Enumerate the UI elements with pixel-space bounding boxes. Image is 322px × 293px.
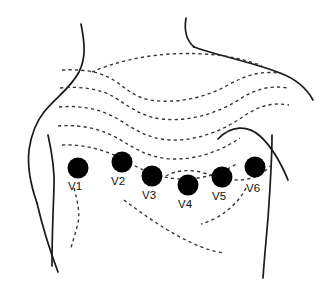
rib-line-2 xyxy=(62,70,284,101)
electrode-label-v2: V2 xyxy=(111,176,125,188)
electrode-dot-v4[interactable] xyxy=(178,175,199,196)
rib-line-1 xyxy=(92,54,262,73)
torso-illustration xyxy=(0,0,322,293)
rib-line-3 xyxy=(60,87,288,120)
electrode-dot-v5[interactable] xyxy=(212,167,233,188)
electrode-dot-v2[interactable] xyxy=(112,152,133,173)
rib-outline-group xyxy=(58,54,289,254)
rib-line-4 xyxy=(59,104,289,140)
electrode-label-v3: V3 xyxy=(142,190,156,202)
electrode-dot-v3[interactable] xyxy=(142,166,163,187)
arm-left-outline xyxy=(37,203,58,272)
electrode-label-v4: V4 xyxy=(178,199,192,211)
electrode-label-v5: V5 xyxy=(212,191,226,203)
torso-side-right-outline xyxy=(263,135,272,278)
neck-left-outline xyxy=(44,24,84,112)
ecg-electrode-placement-diagram: V1 V2 V3 V4 V5 V6 xyxy=(0,0,322,293)
electrode-dot-v6[interactable] xyxy=(245,157,266,178)
shoulder-left-outline xyxy=(28,112,44,203)
neck-right-outline xyxy=(185,18,194,47)
rib-line-8 xyxy=(71,188,79,248)
electrode-label-v1: V1 xyxy=(68,181,82,193)
rib-line-5 xyxy=(58,126,240,159)
rib-line-9 xyxy=(124,200,224,253)
electrode-label-v6: V6 xyxy=(246,183,260,195)
electrode-dot-v1[interactable] xyxy=(68,158,89,179)
electrode-group xyxy=(68,152,266,196)
body-outline-group xyxy=(28,18,313,278)
